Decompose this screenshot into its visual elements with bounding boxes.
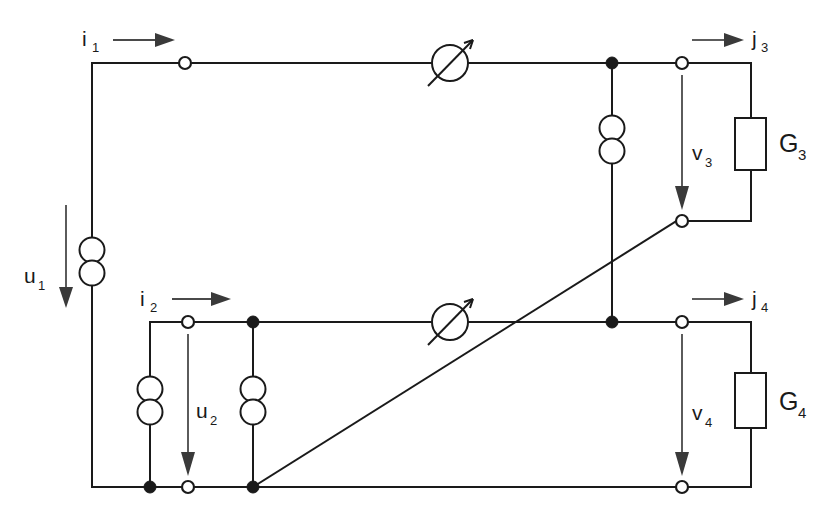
voltage-arrow-u2 [181,334,195,476]
conductance-g4[interactable] [735,373,766,428]
circuit-diagram-canvas: i 1 i 2 u 1 u 2 j 3 j 4 v 3 v 4 [0,0,838,515]
label-v4: v 4 [692,401,712,430]
voltage-arrow-v4 [675,334,689,476]
label-j3-sub: 3 [761,40,768,55]
junction-middle-right [606,316,618,328]
label-u1: u 1 [24,264,45,293]
label-v3-base: v [692,141,703,164]
label-g4: G 4 [779,387,806,421]
label-g3: G 3 [779,129,806,163]
junction-bottom-center [247,481,259,493]
label-v3: v 3 [692,141,712,170]
variable-source-middle[interactable] [428,299,473,345]
label-v4-sub: 4 [705,415,712,430]
gyrator-u2b[interactable] [241,377,266,425]
junction-top-right [606,57,618,69]
current-arrow-j3 [692,33,744,47]
label-i1-base: i [82,27,87,50]
gyrator-u2a[interactable] [138,377,163,425]
circuit-schematic-svg: i 1 i 2 u 1 u 2 j 3 j 4 v 3 v 4 [0,0,838,515]
label-g4-sub: 4 [798,404,806,421]
current-arrow-i1 [113,33,175,47]
label-g3-base: G [779,129,798,157]
label-g4-base: G [779,387,798,415]
label-j3-base: j [751,27,757,50]
label-i1-sub: 1 [92,40,99,55]
label-u2-base: u [196,399,208,422]
gyrator-u1[interactable] [80,238,105,286]
label-u1-base: u [24,264,36,287]
label-i1: i 1 [82,27,99,55]
label-j4: j 4 [751,287,768,315]
label-i2-sub: 2 [150,300,157,315]
label-u2: u 2 [196,399,217,428]
label-j4-base: j [751,287,757,310]
label-g3-sub: 3 [798,146,806,163]
current-arrow-j4 [692,292,744,306]
current-arrow-i2 [172,292,231,306]
junction-middle-left [247,316,259,328]
label-j4-sub: 4 [761,300,768,315]
wire-network [92,63,751,487]
label-v4-base: v [692,401,703,424]
label-i2-base: i [140,287,145,310]
variable-source-top[interactable] [428,40,473,86]
voltage-arrow-v3 [675,75,689,210]
wire-diagonal-crossover [253,222,675,487]
terminal-v4-bottom[interactable] [676,481,688,493]
label-j3: j 3 [751,27,768,55]
terminal-j3-top-right[interactable] [676,57,688,69]
label-u1-sub: 1 [38,278,45,293]
label-u2-sub: 2 [210,413,217,428]
voltage-arrow-u1 [59,205,73,308]
terminal-j4-right[interactable] [676,316,688,328]
label-v3-sub: 3 [705,155,712,170]
terminal-u2-bottom[interactable] [182,481,194,493]
conductance-g3[interactable] [735,118,766,170]
terminal-v3-bottom[interactable] [676,215,688,227]
gyrator-v3[interactable] [600,116,625,164]
terminal-i1-top-left[interactable] [179,57,191,69]
junction-bottom-left [144,481,156,493]
label-i2: i 2 [140,287,157,315]
terminal-i2-left[interactable] [182,316,194,328]
